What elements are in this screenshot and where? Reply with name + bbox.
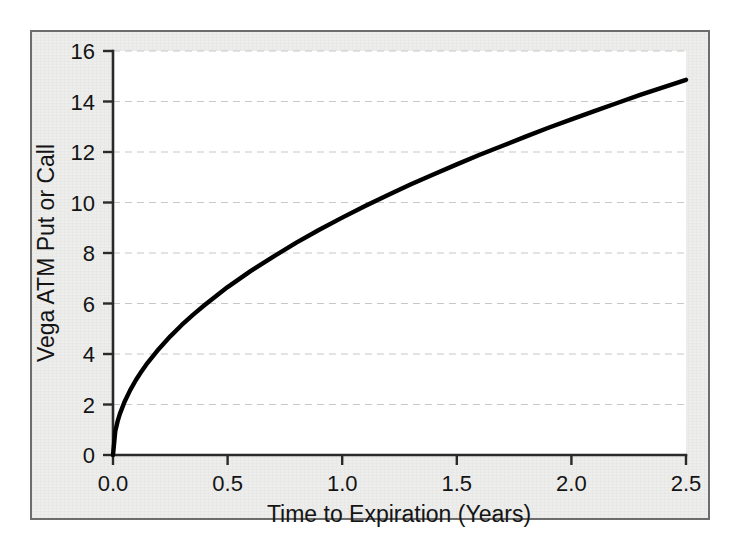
x-axis-ticks [113,455,686,465]
y-axis-title: Vega ATM Put or Call [33,144,59,362]
x-tick-label-0.5: 0.5 [212,471,243,496]
y-tick-label-14: 14 [71,90,95,115]
y-tick-label-8: 8 [83,241,95,266]
x-axis-tick-labels: 0.0 0.5 1.0 1.5 2.0 2.5 [98,471,702,496]
y-axis-tick-labels: 16 14 12 10 8 6 4 2 0 [71,39,95,468]
x-tick-label-0.0: 0.0 [98,471,129,496]
y-tick-label-0: 0 [83,443,95,468]
figure-root: 16 14 12 10 8 6 4 2 0 0.0 0.5 1.0 1.5 2.… [0,0,742,554]
x-tick-label-2.0: 2.0 [556,471,587,496]
x-tick-label-1.5: 1.5 [442,471,473,496]
y-tick-label-16: 16 [71,39,95,64]
y-tick-label-4: 4 [83,342,95,367]
x-tick-label-2.5: 2.5 [671,471,702,496]
vega-vs-time-chart: 16 14 12 10 8 6 4 2 0 0.0 0.5 1.0 1.5 2.… [0,0,742,554]
y-axis-ticks [103,51,113,455]
y-tick-label-10: 10 [71,191,95,216]
y-tick-label-12: 12 [71,140,95,165]
y-tick-label-2: 2 [83,393,95,418]
y-tick-label-6: 6 [83,292,95,317]
x-tick-label-1.0: 1.0 [327,471,358,496]
x-axis-title: Time to Expiration (Years) [267,501,531,527]
